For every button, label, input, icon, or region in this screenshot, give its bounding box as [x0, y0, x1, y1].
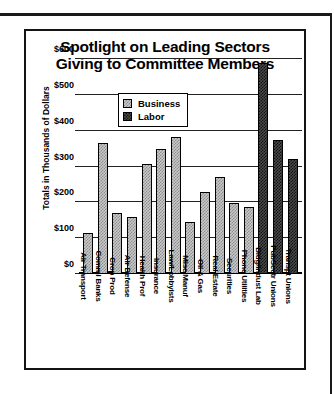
- y-tick-label: $300: [54, 152, 74, 162]
- legend-swatch-business-icon: [123, 99, 132, 108]
- bar-series: [79, 59, 302, 274]
- x-tick-label: PubSectr Unions: [269, 245, 278, 306]
- x-tick-label: Misc Manuf: [181, 255, 190, 297]
- x-tick-label: Air Defense: [123, 255, 132, 297]
- x-tick-label: Law/Lobbyists: [167, 250, 176, 303]
- bar-slot: [139, 59, 154, 274]
- bar-slot: [227, 59, 242, 274]
- x-tick-label: Health Prof: [138, 256, 147, 296]
- x-tick-label: Air Transport: [79, 252, 88, 300]
- legend-item: Business: [123, 97, 180, 110]
- x-axis-labels: Air TransportComml BanksCrop ProdAir Def…: [79, 276, 302, 368]
- y-tick-label: $500: [54, 80, 74, 90]
- legend-item: Labor: [123, 110, 180, 123]
- y-tick-label: $100: [54, 223, 74, 233]
- x-tick-label: Real Estate: [211, 256, 220, 297]
- x-tick-label: Insurance: [152, 258, 161, 294]
- bar-slot: [183, 59, 198, 274]
- bar-slot: [154, 59, 169, 274]
- legend-label-labor: Labor: [138, 111, 164, 122]
- bar-slot: [169, 59, 184, 274]
- legend-label-business: Business: [138, 98, 180, 109]
- bar-slot: [285, 59, 300, 274]
- bar: [258, 63, 268, 274]
- bar-slot: [81, 59, 96, 274]
- y-tick-label: $400: [54, 116, 74, 126]
- chart-figure: Spotlight on Leading Sectors Giving to C…: [24, 29, 306, 370]
- x-tick-label: Comml Banks: [94, 250, 103, 301]
- x-tick-label: Phone Utilities: [240, 250, 249, 303]
- y-axis-title: Totals in Thousands of Dollars: [41, 68, 51, 228]
- bar-slot: [96, 59, 111, 274]
- bar-slot: [125, 59, 140, 274]
- plot-area: $600$500$400$300$200$100$0: [79, 59, 302, 274]
- bar-slot: [271, 59, 286, 274]
- x-tick-label: Transpt Unions: [284, 248, 293, 303]
- bar: [156, 149, 166, 274]
- x-tick-label: Oil & Gas: [196, 259, 205, 293]
- top-divider-rule: [0, 13, 330, 16]
- legend-swatch-labor-icon: [123, 112, 132, 121]
- x-label-slot: Transpt Unions: [285, 276, 300, 368]
- x-tick-label: Securities: [225, 258, 234, 294]
- chart-legend: Business Labor: [118, 93, 188, 127]
- x-tick-label: Bldg/Indust Lab: [254, 247, 263, 304]
- y-tick-label: $200: [54, 187, 74, 197]
- x-tick-label: Crop Prod: [108, 257, 117, 294]
- bar-slot: [242, 59, 257, 274]
- right-divider-rule: [330, 13, 332, 394]
- bar-slot: [212, 59, 227, 274]
- y-tick-label: $600: [54, 44, 74, 54]
- bar-slot: [110, 59, 125, 274]
- bar-slot: [198, 59, 213, 274]
- y-tick-label: $0: [64, 259, 74, 269]
- bar-slot: [256, 59, 271, 274]
